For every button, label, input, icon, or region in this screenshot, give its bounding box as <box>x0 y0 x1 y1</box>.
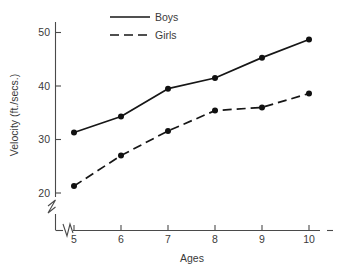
y-tick-label-3: 50 <box>38 26 50 38</box>
data-point-girls-age-10 <box>306 90 312 96</box>
x-tick-label-0: 5 <box>71 233 77 245</box>
y-axis-title: Velocity (ft./secs.) <box>8 74 20 156</box>
data-point-girls-age-5 <box>71 183 77 189</box>
x-tick-label-5: 10 <box>303 233 315 245</box>
series-markers-girls <box>71 90 312 189</box>
y-axis: 50 40 30 20 Velocity (ft./secs.) <box>8 22 61 230</box>
data-point-girls-age-6 <box>118 153 124 159</box>
data-point-girls-age-7 <box>165 128 171 134</box>
x-axis-title: Ages <box>180 252 204 264</box>
data-point-boys-age-5 <box>71 130 77 136</box>
x-tick-label-3: 8 <box>212 233 218 245</box>
x-axis-tick-labels: 5 6 7 8 9 10 <box>71 233 315 245</box>
chart-container: 50 40 30 20 Velocity (ft./secs.) 5 <box>0 0 341 270</box>
series-line-boys <box>74 39 309 132</box>
legend: Boys Girls <box>110 11 178 41</box>
y-tick-label-2: 40 <box>38 80 50 92</box>
y-axis-tick-labels: 50 40 30 20 <box>38 26 50 199</box>
x-tick-label-4: 9 <box>259 233 265 245</box>
data-point-boys-age-6 <box>118 114 124 120</box>
x-axis: 5 6 7 8 9 10 Ages <box>56 224 334 264</box>
data-point-boys-age-7 <box>165 86 171 92</box>
data-point-girls-age-9 <box>259 104 265 110</box>
velocity-by-age-line-chart: 50 40 30 20 Velocity (ft./secs.) 5 <box>0 0 341 270</box>
x-axis-ticks <box>74 225 309 231</box>
data-point-girls-age-8 <box>212 108 218 114</box>
x-tick-label-1: 6 <box>118 233 124 245</box>
data-point-boys-age-8 <box>212 75 218 81</box>
data-point-boys-age-9 <box>259 55 265 61</box>
series-group <box>71 36 312 189</box>
data-point-boys-age-10 <box>306 36 312 42</box>
y-tick-label-0: 20 <box>38 187 50 199</box>
y-axis-ticks <box>56 33 62 194</box>
y-axis-break-icon <box>48 200 56 213</box>
legend-label-girls: Girls <box>155 29 177 41</box>
legend-label-boys: Boys <box>155 11 178 23</box>
series-line-girls <box>74 93 309 186</box>
x-tick-label-2: 7 <box>165 233 171 245</box>
y-tick-label-1: 30 <box>38 133 50 145</box>
